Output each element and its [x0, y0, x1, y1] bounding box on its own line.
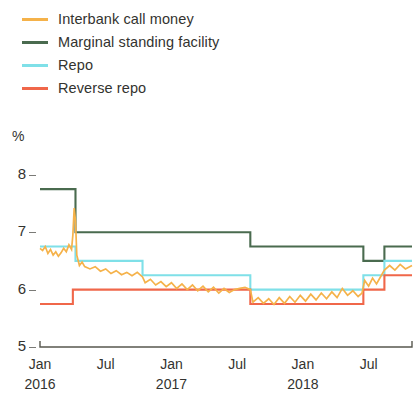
x-year-label-2017: 2017 — [146, 376, 196, 392]
axis-lines — [40, 341, 412, 347]
x-tick-label-2: Jan — [146, 356, 196, 372]
legend-item-repo: Repo — [22, 54, 402, 77]
interest-rate-chart: Interbank call moneyMarginal standing fa… — [0, 0, 417, 394]
y-tick-mark-8 — [29, 175, 36, 176]
legend-label-call_money: Interbank call money — [58, 12, 194, 27]
x-tick-label-5: Jul — [344, 356, 394, 372]
y-tick-mark-7 — [29, 232, 36, 233]
legend-item-reverse_repo: Reverse repo — [22, 77, 402, 100]
y-tick-mark-5 — [29, 347, 36, 348]
y-tick-label-7: 7 — [6, 222, 26, 239]
legend-swatch-repo — [22, 64, 48, 67]
chart-legend: Interbank call moneyMarginal standing fa… — [22, 8, 402, 100]
y-tick-label-5: 5 — [6, 337, 26, 354]
legend-label-repo: Repo — [58, 58, 93, 73]
series-line-msf — [40, 189, 412, 261]
legend-label-msf: Marginal standing facility — [58, 35, 219, 50]
x-tick-label-1: Jul — [81, 356, 131, 372]
legend-item-call_money: Interbank call money — [22, 8, 402, 31]
y-axis-unit-label: % — [12, 128, 24, 144]
legend-swatch-msf — [22, 41, 48, 44]
x-tick-label-4: Jan — [278, 356, 328, 372]
legend-swatch-call_money — [22, 18, 48, 21]
y-tick-mark-6 — [29, 290, 36, 291]
x-tick-label-0: Jan — [15, 356, 65, 372]
x-tick-label-3: Jul — [212, 356, 262, 372]
legend-item-msf: Marginal standing facility — [22, 31, 402, 54]
x-year-label-2016: 2016 — [15, 376, 65, 392]
y-tick-label-6: 6 — [6, 280, 26, 297]
legend-swatch-reverse_repo — [22, 87, 48, 90]
legend-label-reverse_repo: Reverse repo — [58, 81, 146, 96]
x-year-label-2018: 2018 — [278, 376, 328, 392]
y-tick-label-8: 8 — [6, 165, 26, 182]
